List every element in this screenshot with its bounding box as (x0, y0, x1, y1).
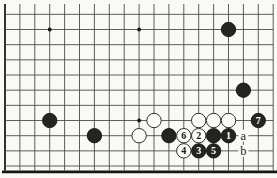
white-stone-15-15 (221, 113, 235, 127)
star-point-9-15 (137, 119, 141, 123)
go-board-diagram: 1234567ab (0, 0, 277, 178)
black-stone-14-16 (206, 128, 220, 142)
move-2-number: 2 (196, 130, 201, 141)
black-stone-3-15 (43, 113, 57, 127)
black-stone-11-16 (162, 128, 176, 142)
white-stone-13-15 (192, 113, 206, 127)
white-stone-10-15 (147, 113, 161, 127)
white-stone-14-15 (206, 113, 220, 127)
move-6-number: 6 (181, 130, 186, 141)
point-label-b: b (240, 144, 246, 158)
move-7-number: 7 (256, 115, 261, 126)
black-stone-16-13 (236, 83, 250, 97)
move-5-number: 5 (211, 145, 216, 156)
move-3-number: 3 (196, 145, 201, 156)
white-stone-9-16 (132, 128, 146, 142)
black-stone-15-9 (221, 22, 235, 36)
move-4-number: 4 (181, 145, 186, 156)
star-point-3-9 (48, 28, 52, 32)
go-diagram-page: 1234567ab (0, 0, 277, 178)
black-stone-6-16 (87, 128, 101, 142)
star-point-9-9 (137, 28, 141, 32)
move-1-number: 1 (226, 130, 231, 141)
point-label-a: a (241, 129, 247, 143)
